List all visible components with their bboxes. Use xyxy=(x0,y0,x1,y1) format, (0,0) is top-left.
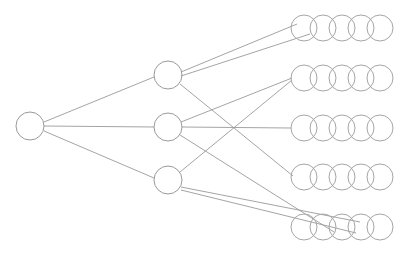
edge-input-to-hidden-1 xyxy=(44,77,154,122)
output-node-4-5 xyxy=(367,164,393,190)
output-group-4 xyxy=(291,164,393,190)
edge-hidden-1-to-output-4 xyxy=(180,84,293,176)
edge-input-to-hidden-3 xyxy=(44,131,154,178)
edge-hidden-3-to-output-2 xyxy=(180,80,292,172)
edge-hidden-3-to-output-5b xyxy=(181,190,356,233)
network-canvas xyxy=(0,0,411,257)
output-node-5-5 xyxy=(367,214,393,240)
hidden-node-2 xyxy=(154,113,182,141)
edge-hidden-1-to-output-1b xyxy=(181,34,310,76)
hidden-node-3 xyxy=(154,166,182,194)
edge-input-to-hidden-2 xyxy=(44,126,154,127)
nodes-group xyxy=(16,61,182,194)
output-node-1-5 xyxy=(367,15,393,41)
edge-hidden-2-to-output-2 xyxy=(181,78,292,122)
edge-hidden-2-to-output-3 xyxy=(182,127,291,128)
input-node-1 xyxy=(16,112,44,140)
hidden-node-1 xyxy=(154,61,182,89)
output-node-3-5 xyxy=(367,115,393,141)
output-layer-group xyxy=(291,15,393,240)
output-group-1 xyxy=(291,15,393,41)
edges-group xyxy=(44,24,360,233)
edge-hidden-1-to-output-1a xyxy=(181,24,297,72)
output-group-2 xyxy=(291,65,393,91)
output-group-3 xyxy=(291,115,393,141)
edge-hidden-2-to-output-5 xyxy=(180,135,334,232)
neural-network-diagram xyxy=(0,0,411,257)
output-group-5 xyxy=(291,214,393,240)
output-node-2-5 xyxy=(367,65,393,91)
